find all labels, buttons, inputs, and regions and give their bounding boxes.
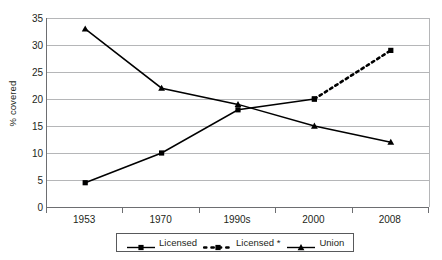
legend-entry[interactable]: Union xyxy=(286,237,344,248)
x-tick-label: 2000 xyxy=(302,214,324,225)
plot-area xyxy=(46,18,430,207)
x-axis-tick-labels: 195319701990s20002008 xyxy=(46,214,428,228)
y-tick-label: 30 xyxy=(32,40,43,51)
series-line xyxy=(85,29,391,142)
x-tick-mark xyxy=(122,207,123,213)
data-point-marker xyxy=(388,48,393,53)
series-layer xyxy=(47,18,429,207)
x-tick-mark xyxy=(352,207,353,213)
data-point-marker xyxy=(215,245,220,250)
legend-entry[interactable]: Licensed * xyxy=(203,237,280,248)
x-tick-label: 1990s xyxy=(223,214,250,225)
legend-label: Union xyxy=(319,237,344,248)
legend-entry[interactable]: Licensed xyxy=(126,237,197,248)
data-point-marker xyxy=(159,150,164,155)
y-axis-title-label: % covered xyxy=(8,81,19,127)
x-tick-mark xyxy=(428,207,429,213)
series-licensed xyxy=(83,96,317,185)
legend-symbol-square-icon xyxy=(203,238,233,247)
data-point-marker xyxy=(138,245,143,250)
y-axis-tick-labels: 05101520253035 xyxy=(18,18,43,207)
y-tick-label: 15 xyxy=(32,121,43,132)
series-union xyxy=(82,25,394,144)
series-line xyxy=(85,99,314,183)
x-tick-label: 2008 xyxy=(379,214,401,225)
y-tick-label: 10 xyxy=(32,148,43,159)
y-tick-label: 0 xyxy=(37,202,43,213)
legend-label: Licensed xyxy=(159,237,197,248)
legend-label: Licensed * xyxy=(236,237,280,248)
legend-symbol-triangle-icon xyxy=(286,238,316,247)
x-tick-label: 1953 xyxy=(73,214,95,225)
line-chart: % covered 05101520253035 195319701990s20… xyxy=(0,0,442,260)
x-tick-mark xyxy=(46,207,47,213)
x-tick-mark xyxy=(199,207,200,213)
data-point-marker xyxy=(235,107,240,112)
y-tick-label: 5 xyxy=(37,175,43,186)
chart-legend: LicensedLicensed *Union xyxy=(116,233,354,252)
x-tick-label: 1970 xyxy=(149,214,171,225)
y-tick-label: 35 xyxy=(32,13,43,24)
y-tick-label: 20 xyxy=(32,94,43,105)
data-point-marker xyxy=(312,96,317,101)
y-tick-label: 25 xyxy=(32,67,43,78)
legend-symbol-square-icon xyxy=(126,238,156,247)
data-point-marker xyxy=(83,180,88,185)
series-line xyxy=(314,50,390,99)
series-licensed xyxy=(312,48,394,102)
data-point-marker xyxy=(82,25,89,31)
x-tick-mark xyxy=(275,207,276,213)
x-axis-ticks xyxy=(46,207,428,214)
